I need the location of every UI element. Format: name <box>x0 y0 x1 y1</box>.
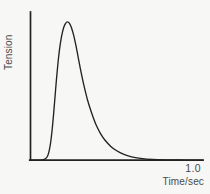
x-axis-label: Time/sec <box>163 177 204 187</box>
chart-figure: Tension 1.0 Time/sec <box>0 0 210 194</box>
tension-curve-line <box>31 22 204 160</box>
x-axis-tick-label-1.0: 1.0 <box>185 163 201 174</box>
twitch-curve-plot <box>0 0 210 194</box>
data-group <box>31 22 204 160</box>
y-axis-label: Tension <box>4 58 60 70</box>
